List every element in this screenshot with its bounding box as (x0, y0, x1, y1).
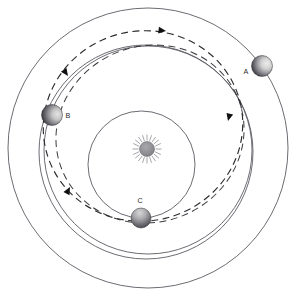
planet-b[interactable]: B (42, 105, 71, 126)
planet-a-body[interactable] (252, 56, 273, 77)
orbital-diagram: A B C (0, 0, 299, 308)
planet-c-body[interactable] (131, 208, 151, 228)
arrow-right-upward-icon (225, 113, 233, 122)
sun-icon (133, 135, 162, 164)
planet-c-label: C (137, 196, 142, 205)
planet-b-label: B (66, 111, 71, 120)
dashed-transfer-orbit-ellipse (23, 10, 263, 243)
arrow-top-leftward-icon (158, 27, 166, 35)
planet-b-body[interactable] (42, 105, 63, 126)
planet-a-label: A (244, 67, 249, 76)
arrow-upper-left-icon (61, 68, 71, 78)
sun-disc (140, 142, 155, 157)
planet-c[interactable]: C (131, 196, 151, 228)
planet-a[interactable]: A (244, 56, 273, 77)
orbit-diagram-canvas: A B C (0, 0, 299, 308)
